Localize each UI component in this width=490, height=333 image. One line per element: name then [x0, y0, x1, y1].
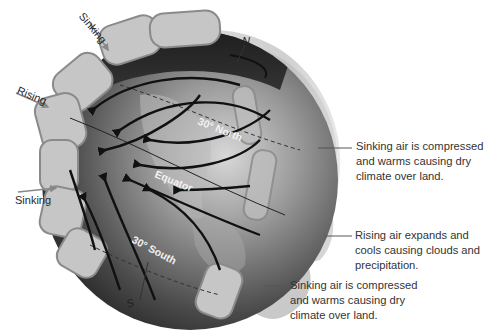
sinking-label-bottom: Sinking [15, 194, 51, 206]
circulation-diagram: 30° North Equator 30° South N S Sinking … [0, 0, 490, 333]
caption-equator: Rising air expands and cools causing clo… [355, 228, 489, 273]
caption-30n: Sinking air is compressed and warms caus… [356, 139, 490, 184]
caption-30s: Sinking air is compressed and warms caus… [290, 278, 424, 323]
north-pole-label: N [242, 35, 250, 47]
